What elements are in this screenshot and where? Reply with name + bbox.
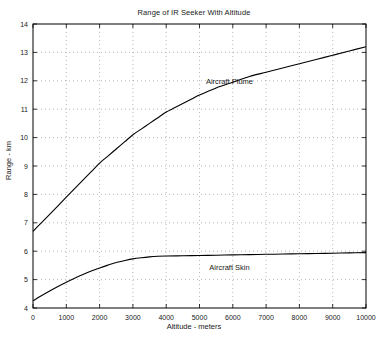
x-tick-label: 10000 (356, 314, 376, 321)
x-tick-label: 0 (31, 314, 35, 321)
y-tick-label: 8 (24, 191, 28, 198)
series-line-aircraft-plume (33, 47, 366, 232)
y-tick-label: 14 (20, 21, 28, 28)
x-tick-label: 5000 (192, 314, 208, 321)
x-tick-label: 7000 (258, 314, 274, 321)
tick-labels-y: 4567891011121314 (20, 21, 28, 312)
y-axis-label: Range - km (4, 131, 13, 191)
x-tick-label: 4000 (158, 314, 174, 321)
grid-lines (33, 24, 366, 308)
plot-frame (33, 24, 366, 308)
y-tick-label: 10 (20, 134, 28, 141)
y-tick-label: 11 (21, 106, 28, 113)
chart-figure: Range of IR Seeker With Altitude 0100020… (0, 0, 388, 338)
x-axis-label: Altitude - meters (0, 322, 388, 331)
series-annotations: Aircraft PlumeAircraft Skin (206, 77, 253, 272)
y-tick-label: 13 (20, 49, 28, 56)
annotation-aircraft-skin: Aircraft Skin (209, 263, 249, 272)
y-tick-label: 7 (24, 219, 28, 226)
tick-marks (33, 24, 366, 308)
x-tick-label: 3000 (125, 314, 141, 321)
plot-canvas: 0100020003000400050006000700080009000100… (0, 0, 388, 338)
x-tick-label: 6000 (225, 314, 241, 321)
y-tick-label: 4 (24, 305, 28, 312)
x-tick-label: 2000 (92, 314, 108, 321)
y-tick-label: 9 (24, 163, 28, 170)
y-tick-label: 12 (20, 77, 28, 84)
y-tick-label: 6 (24, 248, 28, 255)
x-tick-label: 8000 (292, 314, 308, 321)
tick-labels-x: 0100020003000400050006000700080009000100… (31, 314, 376, 321)
x-tick-label: 9000 (325, 314, 341, 321)
y-tick-label: 5 (24, 276, 28, 283)
x-tick-label: 1000 (59, 314, 75, 321)
annotation-aircraft-plume: Aircraft Plume (206, 77, 253, 86)
